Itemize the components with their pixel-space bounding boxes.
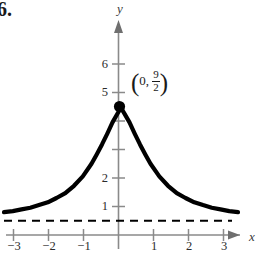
x-axis-arrowhead [228, 231, 240, 240]
x-tick-label-1: 1 [144, 240, 164, 253]
fraction-numerator: 9 [152, 69, 160, 81]
point-annotation: (0, 92) [131, 70, 168, 94]
y-tick-label-6: 6 [88, 58, 108, 71]
y-tick-label-5: 5 [88, 86, 108, 99]
figure-container: 6. y x [0, 0, 263, 261]
x-tick-label--1: −1 [74, 240, 94, 253]
y-axis-arrowhead [114, 20, 123, 33]
annotation-x-value: 0, [139, 73, 149, 88]
fraction-denominator: 2 [152, 81, 160, 94]
annotation-close-paren: ) [160, 69, 168, 96]
y-tick-label-1: 1 [88, 200, 108, 213]
annotation-fraction: 92 [152, 69, 160, 93]
graph-plot-area [0, 0, 263, 261]
x-tick-label--3: −3 [4, 240, 24, 253]
y-axis-label: y [117, 2, 123, 15]
y-tick-label-2: 2 [88, 172, 108, 185]
x-axis-label: x [249, 230, 255, 243]
x-tick-label-3: 3 [214, 240, 234, 253]
x-tick-label-2: 2 [179, 240, 199, 253]
x-tick-label--2: −2 [39, 240, 59, 253]
point-marker [114, 101, 125, 112]
function-curve [4, 108, 238, 212]
